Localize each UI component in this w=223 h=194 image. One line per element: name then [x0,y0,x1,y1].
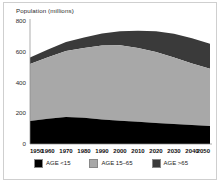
legend-swatch-age-over-65 [152,159,161,168]
legend-item-age-under-15[interactable]: AGE <15 [34,159,71,168]
y-tick-0: 0 [23,140,27,147]
x-tick-2000: 2000 [113,148,127,154]
legend-swatch-age-under-15 [34,159,43,168]
legend-swatch-age-15-65 [89,159,98,168]
x-tick-1990: 1990 [95,148,109,154]
chart-legend: AGE <15 AGE 15–65 AGE >65 [4,155,218,171]
x-tick-1980: 1980 [77,148,91,154]
figure-panel: Population (millions) 2004006008000 1950… [3,2,217,180]
legend-label-age-under-15: AGE <15 [46,160,71,166]
x-tick-2010: 2010 [131,148,145,154]
x-tick-1970: 1970 [59,148,73,154]
y-tick-400: 400 [16,79,27,86]
x-tick-2020: 2020 [149,148,163,154]
area-series-group [30,31,210,144]
legend-item-age-15-65[interactable]: AGE 15–65 [89,159,132,168]
legend-label-age-over-65: AGE >65 [164,160,189,166]
y-axis-tick-labels: 2004006008000 [16,17,27,147]
x-tick-1960: 1960 [41,148,55,154]
x-tick-2030: 2030 [167,148,181,154]
legend-label-age-15-65: AGE 15–65 [101,160,132,166]
legend-item-age-over-65[interactable]: AGE >65 [152,159,189,168]
x-axis-tick-labels: 1950196019701980199020002010202020302040… [30,148,211,154]
y-tick-800: 800 [16,17,27,24]
x-tick-2050: 2050 [197,148,211,154]
y-tick-200: 200 [16,109,27,116]
y-tick-600: 600 [16,48,27,55]
